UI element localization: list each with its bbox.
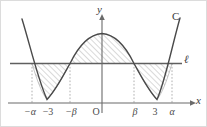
tick-label-alpha: α — [165, 107, 179, 117]
tick-label-minus-beta: −β — [59, 107, 83, 117]
tick-label-minus-three: −3 — [38, 107, 58, 117]
tick-label-three: 3 — [148, 107, 162, 117]
tick-label-beta: β — [128, 107, 142, 117]
shaded-region-right-lower — [130, 58, 178, 106]
figure-container: y x C ℓ −α −3 −β O β 3 α — [0, 0, 207, 127]
x-axis-label: x — [196, 95, 201, 106]
line-label-l: ℓ — [184, 54, 189, 65]
tick-label-origin: O — [89, 107, 103, 117]
curve-label-c: C — [172, 11, 179, 22]
y-axis-label: y — [97, 4, 102, 15]
